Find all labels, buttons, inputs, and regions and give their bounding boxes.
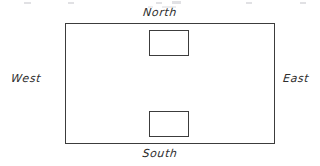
label-south: South bbox=[0, 148, 320, 159]
label-west: West bbox=[10, 73, 41, 84]
compass-diagram: North West East South bbox=[0, 0, 320, 166]
label-east: East bbox=[282, 73, 309, 84]
south-inner-rectangle bbox=[149, 111, 189, 137]
label-north: North bbox=[0, 7, 320, 18]
north-inner-rectangle bbox=[149, 30, 189, 56]
